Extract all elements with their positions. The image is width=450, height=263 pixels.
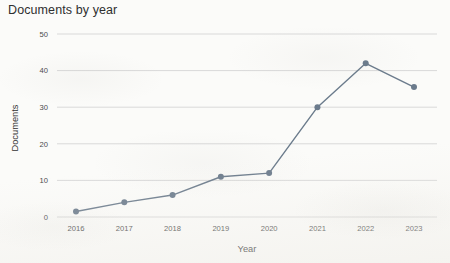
x-axis-tick-labels: 20162017201820192020202120222023 [68, 224, 423, 233]
x-tick-label: 2017 [116, 224, 133, 233]
y-tick-label: 10 [40, 176, 48, 185]
x-tick-label: 2019 [212, 224, 229, 233]
data-point-marker [266, 170, 272, 176]
series-line-documents [76, 63, 414, 211]
data-point-marker [121, 199, 127, 205]
x-tick-label: 2016 [68, 224, 85, 233]
data-point-marker [73, 209, 79, 215]
data-point-marker [363, 60, 369, 66]
gridlines-group [57, 34, 437, 217]
chart-title: Documents by year [8, 3, 117, 17]
y-axis-tick-labels: 01020304050 [40, 30, 48, 222]
data-point-marker [411, 84, 417, 90]
x-tick-label: 2021 [309, 224, 326, 233]
y-tick-label: 40 [40, 66, 48, 75]
y-tick-label: 50 [40, 30, 48, 39]
y-tick-label: 0 [44, 213, 48, 222]
y-tick-label: 20 [40, 140, 48, 149]
x-tick-label: 2020 [261, 224, 278, 233]
data-point-marker [218, 174, 224, 180]
series-markers-group [73, 60, 417, 214]
data-point-marker [170, 192, 176, 198]
line-chart: 01020304050 2016201720182019202020212022… [0, 0, 450, 263]
y-tick-label: 30 [40, 103, 48, 112]
x-tick-label: 2022 [357, 224, 374, 233]
x-tick-label: 2023 [406, 224, 423, 233]
x-tick-label: 2018 [164, 224, 181, 233]
x-axis-title: Year [238, 244, 257, 254]
data-point-marker [314, 104, 320, 110]
y-axis-title: Documents [10, 104, 20, 151]
